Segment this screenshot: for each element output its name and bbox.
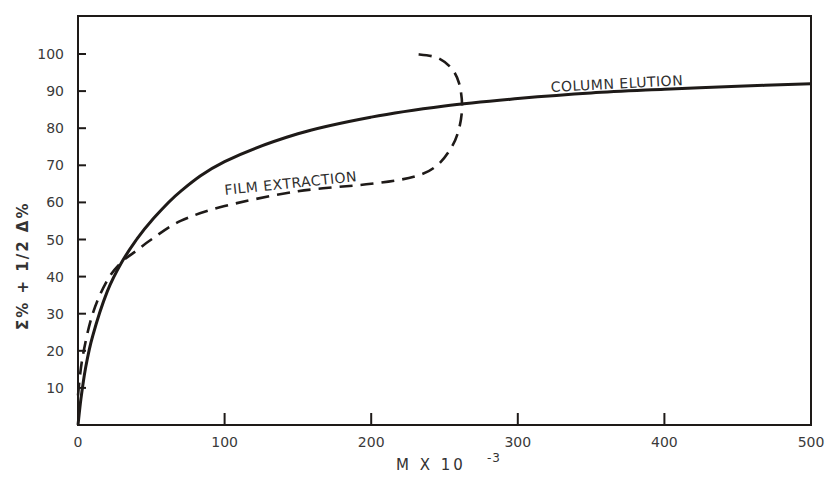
column-elution-curve — [78, 84, 811, 425]
x-axis-title: M X 10 — [396, 456, 466, 474]
x-tick-label: 500 — [798, 434, 825, 450]
x-tick-label: 200 — [358, 434, 385, 450]
x-axis-exponent: -3 — [487, 451, 501, 465]
x-tick-label: 0 — [74, 434, 83, 450]
y-axis-title: Σ% + 1/2 Δ% — [14, 201, 32, 330]
y-tick-label: 30 — [46, 306, 64, 322]
y-tick-label: 80 — [46, 120, 64, 136]
x-tick-label: 400 — [651, 434, 678, 450]
plot-frame — [78, 16, 811, 425]
y-tick-label: 100 — [37, 46, 64, 62]
x-tick-label: 300 — [504, 434, 531, 450]
film-extraction-curve — [78, 54, 462, 395]
y-tick-label: 70 — [46, 157, 64, 173]
chart: 1020304050607080901000100200300400500 CO… — [0, 0, 836, 487]
film-extraction-label: FILM EXTRACTION — [224, 168, 358, 198]
plot-border — [78, 16, 811, 425]
y-tick-label: 40 — [46, 269, 64, 285]
x-tick-label: 100 — [211, 434, 238, 450]
y-tick-label: 20 — [46, 343, 64, 359]
series-layer — [78, 54, 811, 425]
y-tick-label: 60 — [46, 194, 64, 210]
y-tick-label: 10 — [46, 380, 64, 396]
y-tick-label: 50 — [46, 232, 64, 248]
y-tick-label: 90 — [46, 83, 64, 99]
